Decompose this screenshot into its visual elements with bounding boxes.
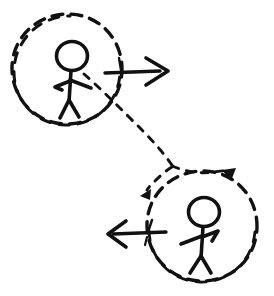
sketch-canvas: [0, 0, 274, 296]
torso-upper-left: [69, 71, 71, 102]
stick-figure-diagram: [0, 0, 274, 296]
arrow-left-shaft: [113, 232, 166, 234]
arrow-right-shaft: [105, 71, 160, 73]
background: [0, 0, 274, 296]
torso-lower-right: [201, 227, 203, 258]
